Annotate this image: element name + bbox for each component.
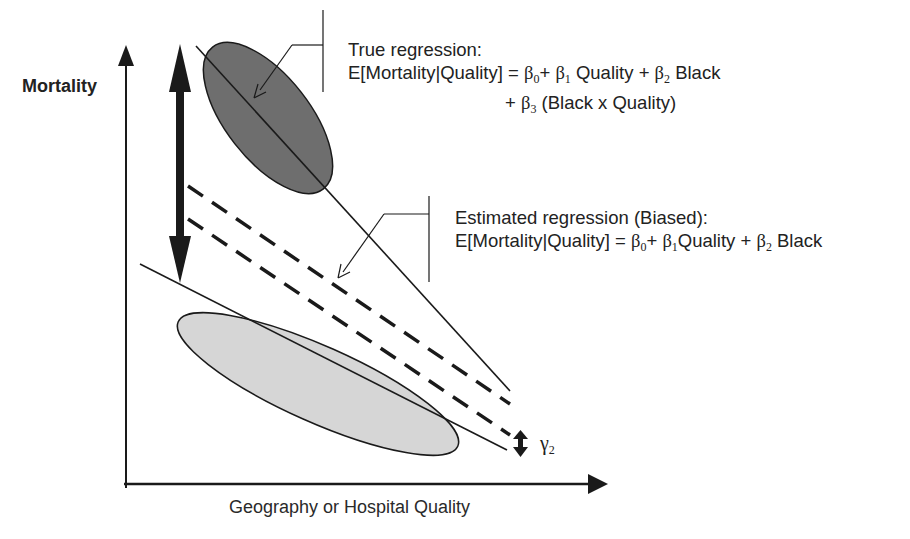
- quality-term: Quality +: [571, 62, 655, 83]
- plus: +: [505, 92, 521, 113]
- large-double-arrow: [169, 44, 191, 283]
- beta-1: β: [555, 63, 564, 83]
- gamma-2-label: γ2: [540, 432, 555, 458]
- beta-1: β: [662, 231, 671, 251]
- dark-ellipse: [179, 21, 356, 215]
- x-axis: [124, 474, 608, 494]
- true-regression-annotation: True regression: E[Mortality|Quality] = …: [348, 38, 720, 121]
- small-double-arrow: [513, 430, 528, 457]
- equation-lhs: E[Mortality|Quality] =: [455, 230, 631, 251]
- beta-2: β: [655, 63, 664, 83]
- estimated-regression-callout: [338, 196, 429, 282]
- true-regression-equation: E[Mortality|Quality] = β0+ β1 Quality + …: [348, 61, 720, 91]
- estimated-regression-equation: E[Mortality|Quality] = β0+ β1Quality + β…: [455, 229, 822, 259]
- estimated-regression-title: Estimated regression (Biased):: [455, 206, 822, 229]
- y-axis-label: Mortality: [22, 76, 97, 97]
- beta-2: β: [756, 231, 765, 251]
- gamma-sub: 2: [549, 443, 555, 457]
- beta-3: β: [521, 93, 530, 113]
- y-axis: [118, 45, 134, 488]
- beta-0: β: [631, 231, 640, 251]
- true-regression-equation-line2: + β3 (Black x Quality): [348, 91, 720, 121]
- gamma: γ: [540, 432, 549, 454]
- black-term: Black: [670, 62, 720, 83]
- plus: +: [539, 62, 555, 83]
- equation-lhs: E[Mortality|Quality] =: [348, 62, 524, 83]
- quality-term: Quality +: [678, 230, 757, 251]
- true-regression-title: True regression:: [348, 38, 720, 61]
- plus: +: [646, 230, 662, 251]
- black-term: Black: [772, 230, 822, 251]
- interaction-term: (Black x Quality): [536, 92, 676, 113]
- estimated-regression-annotation: Estimated regression (Biased): E[Mortali…: [455, 206, 822, 259]
- beta-0: β: [524, 63, 533, 83]
- x-axis-label: Geography or Hospital Quality: [229, 497, 470, 518]
- light-ellipse: [163, 287, 473, 481]
